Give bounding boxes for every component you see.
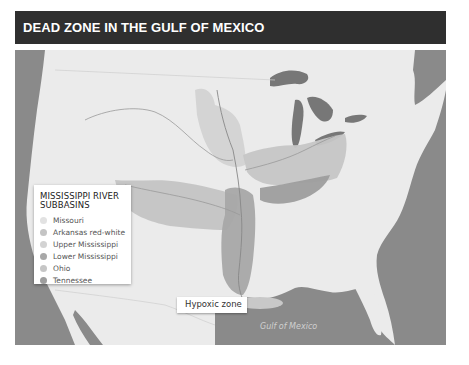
us-canada-border	[55, 70, 275, 80]
legend-dot-icon	[40, 253, 47, 260]
gulf-of-mexico-label: Gulf of Mexico	[260, 322, 317, 331]
legend-item-arkansas: Arkansas red-white	[40, 226, 125, 238]
st-lawrence	[413, 50, 446, 105]
legend-label: Ohio	[53, 264, 70, 273]
legend-item-ohio: Ohio	[40, 262, 125, 274]
legend-label: Tennessee	[53, 276, 92, 285]
legend-title: MISSISSIPPI RIVER SUBBASINS	[40, 192, 119, 210]
title-bar: DEAD ZONE IN THE GULF OF MEXICO	[15, 11, 446, 44]
legend-label: Upper Mississippi	[53, 240, 118, 249]
upper-mississippi-basin	[195, 89, 246, 167]
legend-items: Missouri Arkansas red-white Upper Missis…	[40, 214, 125, 286]
hypoxic-zone-callout: Hypoxic zone	[177, 297, 247, 313]
lake-michigan	[292, 100, 304, 148]
legend-item-upper-mississippi: Upper Mississippi	[40, 238, 125, 250]
legend-label: Lower Mississippi	[53, 252, 118, 261]
legend-label: Missouri	[53, 216, 84, 225]
arkansas-red-white-basin	[115, 180, 238, 230]
legend: MISSISSIPPI RIVER SUBBASINS Missouri Ark…	[34, 185, 131, 284]
lake-huron	[307, 97, 333, 122]
legend-label: Arkansas red-white	[53, 228, 125, 237]
legend-dot-icon	[40, 277, 47, 284]
hypoxic-zone-label: Hypoxic zone	[185, 299, 242, 309]
legend-item-tennessee: Tennessee	[40, 274, 125, 286]
page-title: DEAD ZONE IN THE GULF OF MEXICO	[23, 20, 264, 35]
legend-item-lower-mississippi: Lower Mississippi	[40, 250, 125, 262]
legend-item-missouri: Missouri	[40, 214, 125, 226]
legend-dot-icon	[40, 217, 47, 224]
atlantic-ocean	[377, 90, 446, 345]
gulf-of-california	[73, 310, 103, 345]
legend-dot-icon	[40, 265, 47, 272]
legend-dot-icon	[40, 241, 47, 248]
lake-ontario	[345, 115, 367, 123]
legend-title-line2: SUBBASINS	[40, 201, 119, 210]
legend-dot-icon	[40, 229, 47, 236]
lake-superior	[270, 71, 308, 87]
